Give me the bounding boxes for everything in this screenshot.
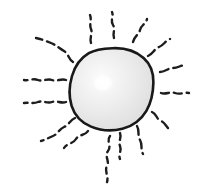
drawing-canvas (0, 0, 207, 195)
sun-illustration (0, 0, 207, 195)
ray-nnw (90, 15, 92, 43)
disc-highlight (92, 74, 114, 92)
